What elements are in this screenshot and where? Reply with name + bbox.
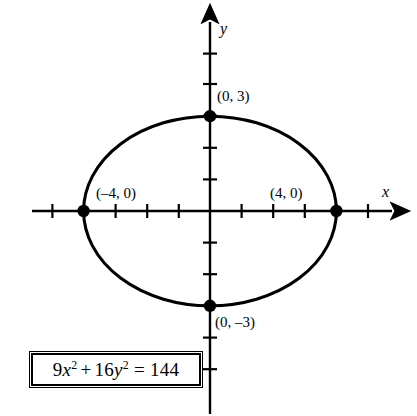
figure-canvas: y x (0, 3) (–4, 0) (4, 0) (0, –3) 9x2+16… (0, 0, 417, 416)
vertex-dot-top (204, 110, 216, 122)
equation-box-inner: 9x2+16y2=144 (31, 353, 201, 386)
equation-var-y: y (114, 359, 123, 380)
label-left-vertex: (–4, 0) (96, 186, 136, 201)
equation-var-x: x (62, 359, 71, 380)
vertex-dot-left (77, 205, 89, 217)
equation-plus: + (80, 359, 91, 380)
equation-text: 9x2+16y2=144 (53, 359, 180, 381)
equation-coefficient-y: 16 (94, 359, 114, 380)
equation-equals: = (134, 359, 145, 380)
equation-exp-x: 2 (71, 358, 77, 371)
x-axis-label: x (382, 184, 389, 200)
equation-exp-y: 2 (123, 358, 129, 371)
equation-coefficient-x: 9 (53, 359, 63, 380)
vertex-dot-bottom (204, 300, 216, 312)
y-axis-label: y (220, 21, 227, 37)
label-top-vertex: (0, 3) (217, 89, 250, 104)
equation-box: 9x2+16y2=144 (29, 351, 203, 388)
vertex-dot-right (330, 205, 342, 217)
equation-constant: 144 (150, 359, 179, 380)
label-right-vertex: (4, 0) (270, 186, 303, 201)
label-bottom-vertex: (0, –3) (215, 315, 255, 330)
